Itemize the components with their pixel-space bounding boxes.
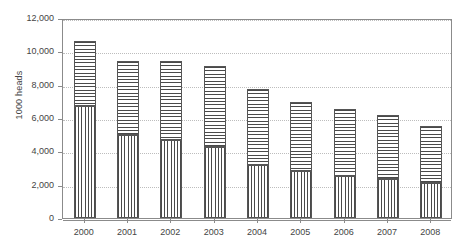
x-axis-tick-label: 2001: [117, 227, 137, 237]
bar-segment-upper: [204, 66, 226, 148]
bar-segment-lower: [334, 176, 356, 219]
bar-segment-lower: [117, 135, 139, 218]
plot-area: [62, 19, 452, 219]
y-axis-tick-label: 2,000: [2, 180, 54, 190]
bar-segment-lower: [290, 171, 312, 219]
y-axis-tick-label: 8,000: [2, 80, 54, 90]
bar-segment-upper: [247, 89, 269, 165]
bar-segment-upper: [377, 115, 399, 179]
x-axis-tick-label: 2008: [420, 227, 440, 237]
x-axis-tick-mark: [387, 219, 388, 223]
bar-segment-upper: [420, 126, 442, 183]
x-axis-tick-label: 2004: [247, 227, 267, 237]
x-axis-tick-mark: [214, 219, 215, 223]
x-axis-tick-mark: [430, 219, 431, 223]
bar-group: [74, 18, 96, 218]
bar-group: [377, 18, 399, 218]
x-axis-tick-label: 2006: [334, 227, 354, 237]
x-axis-tick-label: 2007: [377, 227, 397, 237]
bar-group: [117, 18, 139, 218]
y-axis-tick-label: 10,000: [2, 46, 54, 56]
x-axis-tick-label: 2005: [290, 227, 310, 237]
bars-layer: [63, 20, 451, 218]
x-axis-tick-label: 2003: [204, 227, 224, 237]
bar-group: [290, 18, 312, 218]
x-axis-tick-mark: [84, 219, 85, 223]
bar-segment-upper: [117, 61, 139, 135]
y-axis-tick-label: 6,000: [2, 113, 54, 123]
bar-segment-lower: [204, 147, 226, 218]
bar-segment-upper: [334, 109, 356, 176]
stacked-bar-chart: 1000 heads 12,00010,0008,0006,0004,0002,…: [0, 0, 471, 249]
x-axis-tick-label: 2000: [74, 227, 94, 237]
x-axis-tick-mark: [127, 219, 128, 223]
bar-group: [247, 18, 269, 218]
bar-segment-lower: [420, 183, 442, 218]
bar-group: [204, 18, 226, 218]
bar-segment-lower: [247, 165, 269, 218]
bar-segment-lower: [74, 106, 96, 218]
bar-segment-upper: [290, 102, 312, 170]
x-axis-tick-mark: [344, 219, 345, 223]
bar-group: [420, 18, 442, 218]
x-axis-tick-mark: [257, 219, 258, 223]
bar-group: [160, 18, 182, 218]
bar-segment-upper: [74, 41, 96, 107]
y-axis-tick-mark: [58, 219, 62, 220]
bar-group: [334, 18, 356, 218]
bar-segment-lower: [160, 140, 182, 218]
bar-segment-lower: [377, 179, 399, 218]
y-axis-tick-label: 0: [2, 213, 54, 223]
bar-segment-upper: [160, 61, 182, 140]
x-axis-tick-label: 2002: [160, 227, 180, 237]
x-axis-tick-mark: [300, 219, 301, 223]
y-axis-tick-label: 12,000: [2, 13, 54, 23]
y-axis-tick-label: 4,000: [2, 146, 54, 156]
x-axis-tick-mark: [170, 219, 171, 223]
